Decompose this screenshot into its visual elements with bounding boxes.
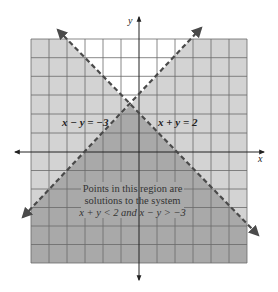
y-axis-label: y xyxy=(127,15,133,26)
line1-label: x − y = −3 xyxy=(61,116,109,128)
x-axis-label: x xyxy=(257,153,263,164)
line2-label: x + y = 2 xyxy=(157,116,198,128)
annotation-line-2: solutions to the system xyxy=(85,195,181,206)
annotation-line-1: Points in this region are xyxy=(83,183,183,194)
annotation-line-3: x + y < 2 and x − y > −3 xyxy=(78,207,186,218)
inequality-graph: y x x − y = −3 x + y = 2 Points in this … xyxy=(0,0,278,292)
